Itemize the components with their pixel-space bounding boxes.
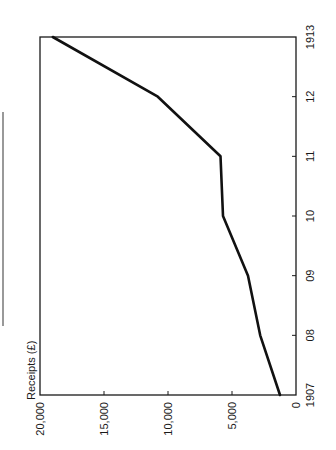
- year-tick-label: 08: [304, 329, 316, 341]
- year-tick-label: 12: [304, 91, 316, 103]
- value-tick-label: 15,000: [98, 402, 110, 436]
- receipts-chart: 05,00010,00015,00020,0001907080910111219…: [0, 0, 336, 450]
- axis-ticks: [104, 97, 296, 395]
- receipts-line: [53, 37, 280, 395]
- plot-frame: [40, 37, 296, 395]
- year-tick-label: 11: [304, 151, 316, 162]
- value-tick-label: 5,000: [226, 402, 238, 430]
- y-axis-title: Receipts (£): [25, 341, 37, 400]
- value-tick-label: 20,000: [34, 402, 46, 436]
- year-tick-label: 1907: [304, 383, 316, 407]
- year-tick-label: 1913: [304, 25, 316, 49]
- value-tick-label: 0: [290, 402, 302, 408]
- year-tick-label: 09: [304, 270, 316, 282]
- year-tick-label: 10: [304, 210, 316, 222]
- value-tick-label: 10,000: [162, 402, 174, 436]
